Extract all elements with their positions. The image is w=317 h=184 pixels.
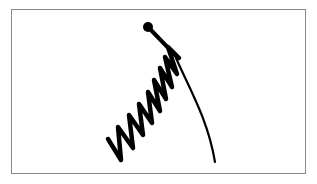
spring-sketch	[108, 22, 215, 162]
ball-endpoint	[143, 22, 153, 32]
coil-stem-line	[148, 27, 178, 58]
coil-zigzag	[108, 47, 179, 160]
spring-drawing	[0, 0, 317, 184]
tail-curve	[176, 58, 215, 162]
